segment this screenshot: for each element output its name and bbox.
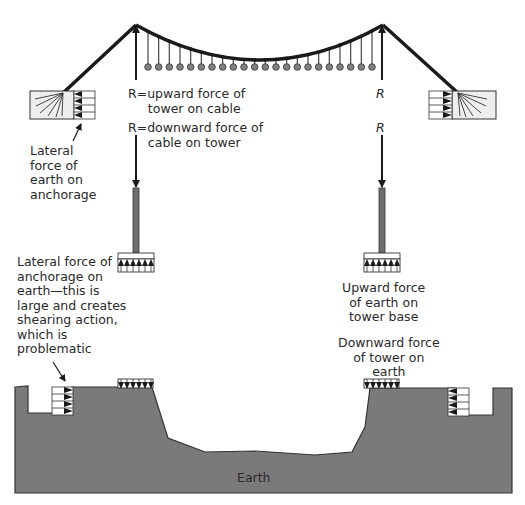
label-r-right-down: R xyxy=(376,121,385,136)
left-tower xyxy=(133,188,139,253)
right-tower-base xyxy=(364,253,400,272)
cable-hangers xyxy=(145,29,376,70)
label-r-upward: R=upward force of tower on cable xyxy=(128,87,245,116)
label-upward-earth-on-base: Upward force of earth on tower base xyxy=(342,281,425,325)
label-r-downward: R=downward force of cable on tower xyxy=(128,121,263,150)
right-ground-pad xyxy=(364,379,400,389)
label-earth: Earth xyxy=(237,471,271,486)
left-ground-pad xyxy=(118,379,154,389)
label-lateral-earth-on-anchorage: Lateral force of earth on anchorage xyxy=(30,144,96,202)
label-downward-tower-on-earth: Downward force of tower on earth xyxy=(338,336,440,380)
label-r-right-up: R xyxy=(376,87,385,102)
left-anchorage xyxy=(30,91,95,119)
left-ground-lateral-force xyxy=(52,387,73,415)
diagram-graphics xyxy=(0,0,525,505)
main-cable xyxy=(63,25,458,93)
suspension-bridge-diagram: R=upward force of tower on cable R=downw… xyxy=(0,0,525,505)
right-anchorage xyxy=(429,91,496,119)
lateral-earth-pointer-arrow xyxy=(73,124,81,141)
right-ground-lateral-force xyxy=(448,388,469,416)
right-tower xyxy=(379,188,385,253)
label-lateral-anchorage-on-earth: Lateral force of anchorage on earth—this… xyxy=(17,255,126,357)
lateral-anchorage-pointer-arrow xyxy=(53,362,65,381)
